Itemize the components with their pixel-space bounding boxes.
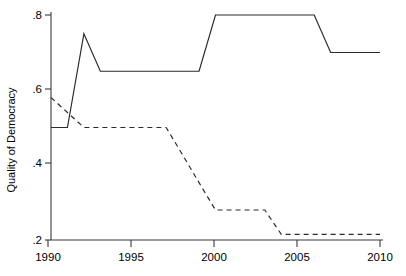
y-tick-label-0.6: .6 xyxy=(32,83,42,95)
y-tick-label-0.8: .8 xyxy=(32,9,42,21)
series-line-dashed xyxy=(51,98,380,235)
x-tick-label-1995: 1995 xyxy=(118,251,144,263)
x-tick-label-2010: 2010 xyxy=(367,251,393,263)
y-tick-label-0.2: .2 xyxy=(32,234,42,246)
line-chart: Quality of Democracy .8 .6 .4 .2 1990 19… xyxy=(0,0,406,276)
chart-container: Quality of Democracy .8 .6 .4 .2 1990 19… xyxy=(0,0,406,276)
x-tick-label-1990: 1990 xyxy=(35,251,61,263)
y-axis-title: Quality of Democracy xyxy=(5,87,17,193)
y-tick-label-0.4: .4 xyxy=(32,157,42,169)
x-tick-label-2005: 2005 xyxy=(284,251,310,263)
x-tick-label-2000: 2000 xyxy=(201,251,227,263)
series-line-solid xyxy=(51,15,380,128)
